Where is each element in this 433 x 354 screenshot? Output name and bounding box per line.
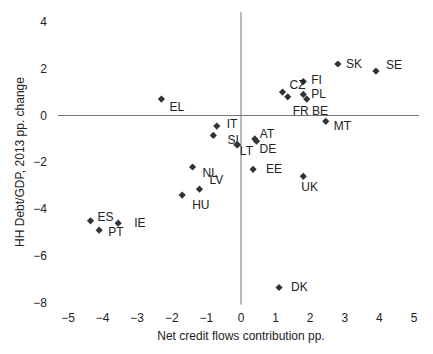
data-point: HU bbox=[179, 191, 210, 212]
y-tick-label: −4 bbox=[33, 202, 47, 216]
diamond-marker-icon bbox=[196, 186, 203, 193]
point-label: IE bbox=[134, 216, 145, 230]
data-point: ES bbox=[87, 210, 114, 225]
point-label: AT bbox=[260, 127, 275, 141]
point-label: SE bbox=[386, 58, 402, 72]
y-tick-label: −8 bbox=[33, 296, 47, 310]
diamond-marker-icon bbox=[300, 173, 307, 180]
diamond-marker-icon bbox=[250, 166, 257, 173]
x-tick-label: 2 bbox=[307, 311, 314, 325]
y-tick-label: −2 bbox=[33, 155, 47, 169]
point-label: FR BE bbox=[293, 104, 328, 118]
point-label: LT bbox=[240, 144, 254, 158]
scatter-chart: −5−4−3−2−1012345420−2−4−6−8 SKSEFICZPLFR… bbox=[0, 0, 433, 354]
point-label: FI bbox=[311, 73, 322, 87]
x-tick-label: −4 bbox=[96, 311, 110, 325]
x-tick-label: −3 bbox=[130, 311, 144, 325]
diamond-marker-icon bbox=[275, 284, 282, 291]
diamond-marker-icon bbox=[96, 227, 103, 234]
data-point: PT bbox=[96, 225, 125, 239]
x-tick-label: −5 bbox=[61, 311, 75, 325]
point-label: CZ bbox=[290, 78, 306, 92]
y-tick-label: 0 bbox=[40, 109, 47, 123]
point-label: HU bbox=[192, 198, 209, 212]
x-tick-label: 3 bbox=[341, 311, 348, 325]
x-axis-label: Net credit flows contribution pp. bbox=[157, 329, 324, 343]
data-point: SE bbox=[372, 58, 402, 75]
data-point: LV bbox=[196, 173, 223, 193]
diamond-marker-icon bbox=[279, 89, 286, 96]
x-tick-label: 1 bbox=[272, 311, 279, 325]
point-label: PT bbox=[108, 225, 124, 239]
x-tick-label: 5 bbox=[411, 311, 418, 325]
axes bbox=[58, 12, 419, 305]
point-label: MT bbox=[334, 119, 352, 133]
diamond-marker-icon bbox=[372, 67, 379, 74]
point-label: IT bbox=[227, 117, 238, 131]
point-label: ES bbox=[97, 210, 113, 224]
data-point: UK bbox=[300, 173, 318, 195]
point-label: PL bbox=[311, 87, 326, 101]
diamond-marker-icon bbox=[334, 60, 341, 67]
data-point: EL bbox=[158, 96, 185, 115]
point-label: EL bbox=[169, 100, 184, 114]
data-point: IT bbox=[213, 117, 238, 131]
data-point: LT bbox=[233, 141, 253, 158]
data-point bbox=[284, 93, 291, 100]
y-axis-label: HH Debt/GDP, 2013 pp. change bbox=[13, 77, 27, 247]
data-point: EE bbox=[250, 162, 283, 176]
data-point: MT bbox=[322, 118, 352, 134]
point-label: LV bbox=[209, 173, 223, 187]
diamond-marker-icon bbox=[322, 118, 329, 125]
point-label: SK bbox=[346, 57, 362, 71]
point-label: EE bbox=[266, 162, 282, 176]
diamond-marker-icon bbox=[179, 191, 186, 198]
data-points: SKSEFICZPLFR BEMTELITSILTATDEEEUKNLLVHUE… bbox=[87, 57, 402, 294]
point-label: DE bbox=[260, 142, 277, 156]
diamond-marker-icon bbox=[213, 122, 220, 129]
y-tick-label: 2 bbox=[40, 62, 47, 76]
x-tick-label: −2 bbox=[165, 311, 179, 325]
diamond-marker-icon bbox=[284, 93, 291, 100]
point-label: DK bbox=[291, 280, 308, 294]
y-tick-label: 4 bbox=[40, 15, 47, 29]
diamond-marker-icon bbox=[158, 96, 165, 103]
x-tick-label: 0 bbox=[238, 311, 245, 325]
data-point: SK bbox=[334, 57, 362, 71]
x-tick-label: 4 bbox=[376, 311, 383, 325]
y-tick-label: −6 bbox=[33, 249, 47, 263]
data-point: DK bbox=[275, 280, 307, 294]
diamond-marker-icon bbox=[87, 217, 94, 224]
diamond-marker-icon bbox=[189, 163, 196, 170]
data-point bbox=[210, 132, 217, 139]
diamond-marker-icon bbox=[210, 132, 217, 139]
point-label: UK bbox=[301, 180, 318, 194]
x-tick-label: −1 bbox=[200, 311, 214, 325]
